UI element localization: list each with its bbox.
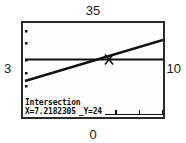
axis-label-top: 35 — [0, 4, 186, 17]
x-axis-rule — [105, 109, 163, 115]
intersection-readout: Intersection X=7.2182305 _Y=24 — [25, 98, 163, 116]
x-axis-rule-line — [105, 114, 163, 116]
x-axis-rule-tick — [162, 110, 164, 115]
calculator-screen: Intersection X=7.2182305 _Y=24 — [21, 21, 165, 119]
x-axis-rule-tick — [139, 110, 141, 115]
readout-title: Intersection — [25, 98, 163, 107]
readout-x-value: X=7.2182305 — [25, 107, 76, 116]
axis-label-right: 10 — [167, 62, 181, 75]
x-axis-rule-tick — [115, 110, 117, 115]
readout-y-value: _Y=24 — [79, 107, 102, 116]
axis-label-left: 3 — [4, 62, 11, 75]
readout-values-row: X=7.2182305 _Y=24 — [25, 107, 163, 116]
axis-label-bottom: 0 — [0, 128, 186, 141]
